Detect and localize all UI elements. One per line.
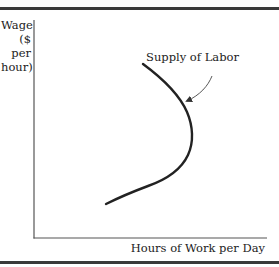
x-axis-label: Hours of Work per Day xyxy=(131,241,265,255)
annotation-arrow-icon xyxy=(187,76,212,101)
supply-of-labor-curve xyxy=(106,64,192,204)
chart-plot-area xyxy=(0,0,279,267)
curve-annotation-label: Supply of Labor xyxy=(146,50,239,64)
